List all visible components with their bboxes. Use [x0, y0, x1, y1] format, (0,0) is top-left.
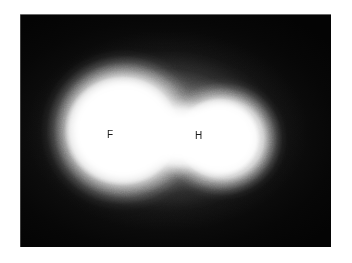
figure-root: F H — [0, 0, 352, 263]
dark-field-image-panel: F H — [20, 14, 331, 247]
lobe-label-h: H — [195, 131, 202, 141]
dark-background-field — [20, 14, 331, 247]
lobe-label-f: F — [107, 130, 113, 140]
